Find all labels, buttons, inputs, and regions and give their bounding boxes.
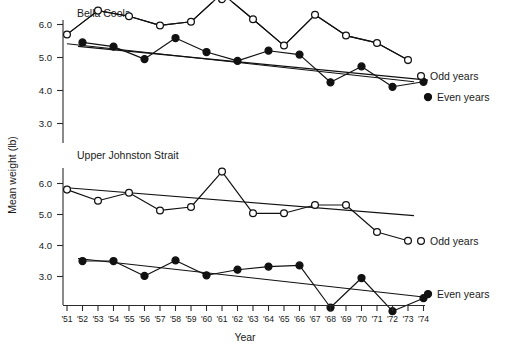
bottom-ytick-5: 5.0 — [39, 209, 52, 220]
top-even-trend-line — [78, 46, 428, 80]
xtick-63: '63 — [247, 314, 258, 324]
x-axis-label: Year — [234, 331, 256, 343]
bottom-even-years-line — [83, 260, 424, 311]
bottom-odd-years-line — [67, 172, 408, 241]
chart-figure: Mean weight (lb) Bella Coola 6.0 5.0 4.0… — [0, 0, 506, 351]
top-ytick-3: 3.0 — [39, 118, 52, 129]
xtick-64: '64 — [263, 314, 274, 324]
top-even-years-line — [83, 38, 424, 87]
panel-title-upper-johnston: Upper Johnston Strait — [77, 149, 179, 161]
xtick-65: '65 — [278, 314, 289, 324]
xtick-51: '51 — [61, 314, 72, 324]
top-legend-odd-marker — [418, 73, 425, 80]
xtick-59: '59 — [185, 314, 196, 324]
bottom-even-trend-line — [78, 259, 428, 298]
y-axis-label: Mean weight (lb) — [6, 136, 18, 214]
xtick-69: '69 — [340, 314, 351, 324]
xtick-74: '74 — [418, 314, 429, 324]
chart-svg: Mean weight (lb) Bella Coola 6.0 5.0 4.0… — [0, 0, 506, 351]
x-axis: '51 '52 '53 '54 '55 '56 '57 '58 '59 '60 … — [61, 306, 429, 344]
bottom-legend-even-label: Even years — [437, 288, 490, 300]
xtick-57: '57 — [154, 314, 165, 324]
bottom-legend-odd-label: Odd years — [430, 235, 478, 247]
panel-bella-coola: Bella Coola 6.0 5.0 4.0 3.0 — [39, 0, 490, 143]
xtick-61: '61 — [216, 314, 227, 324]
xtick-71: '71 — [371, 314, 382, 324]
bottom-panel-y-ticks: 6.0 5.0 4.0 3.0 — [39, 178, 63, 282]
panel-upper-johnston-strait: Upper Johnston Strait 6.0 5.0 4.0 3.0 — [39, 149, 490, 315]
xtick-72: '72 — [387, 314, 398, 324]
xtick-55: '55 — [123, 314, 134, 324]
top-legend-odd-label: Odd years — [430, 70, 478, 82]
bottom-ytick-6: 6.0 — [39, 178, 52, 189]
bottom-odd-trend-line — [67, 188, 414, 216]
xtick-56: '56 — [139, 314, 150, 324]
xtick-60: '60 — [201, 314, 212, 324]
top-ytick-6: 6.0 — [39, 19, 52, 30]
xtick-70: '70 — [356, 314, 367, 324]
xtick-73: '73 — [402, 314, 413, 324]
xtick-66: '66 — [294, 314, 305, 324]
bottom-ytick-3: 3.0 — [39, 271, 52, 282]
bottom-ytick-4: 4.0 — [39, 240, 52, 251]
panel-title-bella-coola: Bella Coola — [77, 7, 131, 19]
xtick-67: '67 — [309, 314, 320, 324]
xtick-52: '52 — [77, 314, 88, 324]
top-panel-y-ticks: 6.0 5.0 4.0 3.0 — [39, 19, 63, 129]
xtick-62: '62 — [232, 314, 243, 324]
xtick-53: '53 — [92, 314, 103, 324]
bottom-legend-even-marker — [425, 291, 432, 298]
bottom-odd-years-markers — [64, 168, 412, 244]
bottom-legend-odd-marker — [418, 238, 425, 245]
xtick-54: '54 — [108, 314, 119, 324]
top-legend-even-label: Even years — [437, 91, 490, 103]
xtick-58: '58 — [170, 314, 181, 324]
top-ytick-4: 4.0 — [39, 85, 52, 96]
x-axis-tick-labels: '51 '52 '53 '54 '55 '56 '57 '58 '59 '60 … — [61, 314, 429, 324]
xtick-68: '68 — [325, 314, 336, 324]
x-axis-ticks — [67, 306, 424, 312]
top-legend-even-marker — [425, 94, 432, 101]
top-ytick-5: 5.0 — [39, 52, 52, 63]
